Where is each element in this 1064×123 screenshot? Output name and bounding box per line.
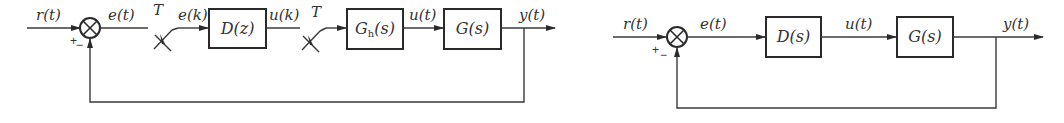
input-label: r(t) xyxy=(36,6,61,24)
summing-junction-icon xyxy=(667,27,687,47)
minus-sign: − xyxy=(660,48,667,62)
minus-sign: − xyxy=(76,38,83,52)
plant-label: G(s) xyxy=(456,19,489,38)
sampler-period-label: T xyxy=(311,3,322,21)
sampler-period-label: T xyxy=(153,1,164,19)
digital-control-diagram: r(t) + − e(t) T e(k) D(z) u(k) xyxy=(27,1,555,102)
input-label: r(t) xyxy=(623,15,648,33)
controller-label: D(s) xyxy=(776,27,811,46)
summing-junction-icon xyxy=(80,18,100,38)
plant-label: G(s) xyxy=(908,27,941,46)
sampled-error-label: e(k) xyxy=(178,6,208,24)
plant-input-label: u(t) xyxy=(409,6,437,24)
controller-label: D(z) xyxy=(220,19,255,38)
controller-output-label: u(k) xyxy=(269,6,300,24)
sampler-switch-icon xyxy=(302,28,326,52)
error-label: e(t) xyxy=(700,15,727,33)
block-diagrams: r(t) + − e(t) T e(k) D(z) u(k) xyxy=(0,0,1064,123)
output-label: y(t) xyxy=(1002,15,1029,33)
plus-sign: + xyxy=(652,43,659,57)
control-label: u(t) xyxy=(845,15,873,33)
output-label: y(t) xyxy=(518,6,545,24)
hold-label: Gh(s) xyxy=(355,19,395,39)
continuous-control-diagram: r(t) + − e(t) D(s) u(t) G(s) y(t) xyxy=(613,15,1043,108)
error-label: e(t) xyxy=(108,6,135,24)
sampler-switch-icon xyxy=(154,28,178,51)
